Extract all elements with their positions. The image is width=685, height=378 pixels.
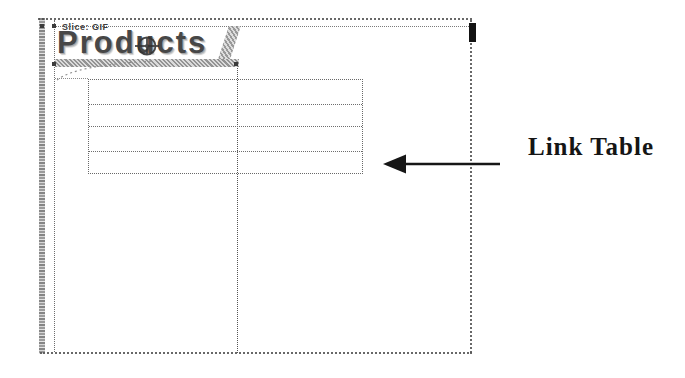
callout-arrow [383,155,500,174]
top-right-ink-mark [469,23,476,42]
banner-slanted-hatch-edge [217,26,241,62]
frame-bottom-dotted-line [40,352,472,354]
layout-guide-vertical-left [54,20,55,352]
frame-top-dotted-line [38,18,472,20]
link-table-row-divider [89,126,362,127]
slice-gif-label: Slice: GIF [62,22,109,32]
banner-shadow-hatch-strip [55,59,239,67]
slice-handle-top [52,24,56,28]
frame-left-speckle-bar [39,18,45,354]
frame-right-dotted-line [470,20,472,353]
link-table [88,79,363,174]
link-table-row-divider [89,104,362,105]
layout-guide-horizontal-stub [55,78,88,79]
scanned-figure-canvas: Products Slice: GIF Link Table [0,0,685,378]
slice-handle-left [52,62,56,66]
frame-corner-handle [40,24,44,28]
slice-handle-right [234,62,238,66]
link-table-callout-label: Link Table [528,133,654,161]
link-table-row-divider [89,151,362,152]
